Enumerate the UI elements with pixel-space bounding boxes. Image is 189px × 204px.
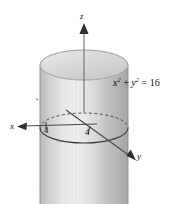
cylinder-figure: z x y 4 4 x2 + y2 = 16 [0, 0, 189, 204]
equation-value: 16 [150, 77, 160, 88]
z-axis-label: z [80, 12, 84, 21]
x-axis-tick-label-4: 4 [44, 126, 49, 135]
equation-equals: = [139, 77, 150, 88]
equation-annotation: x2 + y2 = 16 [113, 77, 160, 88]
x-axis-label: x [10, 122, 14, 131]
cylinder-svg [0, 0, 189, 204]
equation-plus: + [121, 77, 132, 88]
y-axis-label: y [137, 152, 141, 161]
y-axis-tick-label-4: 4 [85, 128, 90, 137]
